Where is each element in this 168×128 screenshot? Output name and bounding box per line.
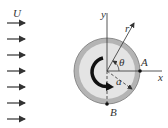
point-b xyxy=(105,102,109,106)
x-axis-label: x xyxy=(157,71,163,83)
freestream-label: U xyxy=(13,7,22,19)
y-axis-label: y xyxy=(100,8,106,20)
freestream-arrows xyxy=(7,23,25,119)
theta-label: θ xyxy=(119,56,125,68)
a-label: a xyxy=(116,75,122,87)
point-a xyxy=(138,69,142,73)
point-b-label: B xyxy=(110,106,117,118)
r-label: r xyxy=(125,22,130,34)
point-a-label: A xyxy=(140,56,148,68)
flow-diagram: U y x r θ a A B xyxy=(0,0,168,128)
